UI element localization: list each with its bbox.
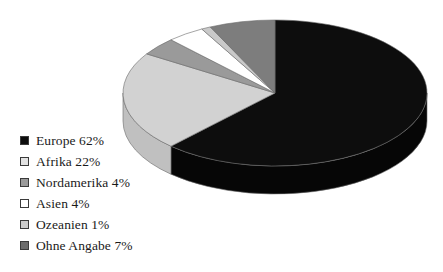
- chart-legend: Europe 62% Afrika 22% Nordamerika 4% Asi…: [20, 130, 205, 256]
- legend-item: Ohne Angabe 7%: [20, 235, 205, 256]
- legend-item: Afrika 22%: [20, 151, 205, 172]
- legend-item: Nordamerika 4%: [20, 172, 205, 193]
- legend-label-ozeanien: Ozeanien 1%: [36, 218, 109, 232]
- legend-swatch-asien: [20, 199, 29, 208]
- legend-swatch-nordamerika: [20, 178, 29, 187]
- legend-label-asien: Asien 4%: [36, 197, 90, 211]
- legend-swatch-europe: [20, 136, 29, 145]
- legend-label-ohne-angabe: Ohne Angabe 7%: [36, 239, 133, 253]
- legend-label-europe: Europe 62%: [36, 134, 104, 148]
- legend-swatch-ohne-angabe: [20, 241, 29, 250]
- legend-item: Europe 62%: [20, 130, 205, 151]
- legend-label-nordamerika: Nordamerika 4%: [36, 176, 130, 190]
- legend-item: Ozeanien 1%: [20, 214, 205, 235]
- pie-chart-figure: Europe 62% Afrika 22% Nordamerika 4% Asi…: [0, 0, 443, 272]
- legend-item: Asien 4%: [20, 193, 205, 214]
- legend-swatch-afrika: [20, 157, 29, 166]
- legend-label-afrika: Afrika 22%: [36, 155, 100, 169]
- legend-swatch-ozeanien: [20, 220, 29, 229]
